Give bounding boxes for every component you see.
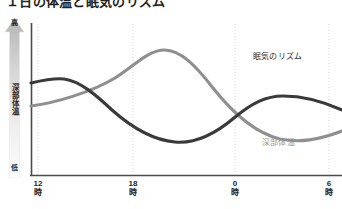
x-tick-label-0: 0 時 xyxy=(224,179,246,197)
series-line-sleepiness xyxy=(31,79,342,143)
x-tick-unit: 時 xyxy=(224,188,246,197)
plot-area xyxy=(0,0,342,209)
x-tick-unit: 時 xyxy=(318,188,340,197)
series-label-sleepiness: 眠気のリズム xyxy=(253,50,302,61)
x-tick-unit: 時 xyxy=(27,188,49,197)
series-label-core-temperature: 深部体温 xyxy=(262,136,295,147)
x-tick-label-6: 6 時 xyxy=(318,179,340,197)
x-tick-label-18: 18 時 xyxy=(122,179,144,197)
x-tick-unit: 時 xyxy=(122,188,144,197)
chart-figure: １日の体温と眠気のリズム 高 深部体温 低 xyxy=(0,0,342,209)
gridlines xyxy=(38,24,329,174)
x-tick-number: 12 xyxy=(27,179,49,188)
x-tick-number: 18 xyxy=(122,179,144,188)
x-tick-number: 0 xyxy=(224,179,246,188)
x-tick-label-12: 12 時 xyxy=(27,179,49,197)
x-tick-number: 6 xyxy=(318,179,340,188)
